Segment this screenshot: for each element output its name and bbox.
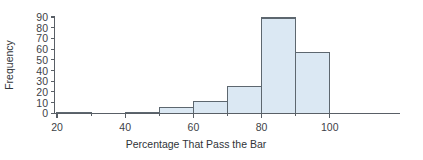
bar-70-80 — [228, 87, 262, 114]
x-tick-label: 100 — [321, 121, 339, 133]
x-tick-label: 60 — [188, 121, 200, 133]
histogram-chart: Frequency 90 80 70 60 50 40 30 20 10 0 — [0, 0, 423, 160]
y-axis-title: Frequency — [3, 39, 15, 89]
x-tick-label: 20 — [51, 121, 63, 133]
bar-50-60 — [159, 108, 193, 113]
bar-80-90 — [262, 18, 296, 113]
x-tick-label: 80 — [256, 121, 268, 133]
histogram-bars — [57, 18, 330, 113]
histogram-figure: Frequency 90 80 70 60 50 40 30 20 10 0 — [0, 0, 423, 160]
y-tick-label: 0 — [42, 107, 48, 119]
bar-90-100 — [296, 52, 330, 113]
bar-60-70 — [193, 102, 227, 114]
x-axis-title: Percentage That Pass the Bar — [126, 138, 267, 150]
y-axis-tick-labels: 90 80 70 60 50 40 30 20 10 0 — [36, 11, 48, 119]
y-axis — [51, 17, 55, 114]
x-tick-label: 40 — [119, 121, 131, 133]
x-axis — [55, 113, 401, 118]
x-axis-tick-labels: 20 40 60 80 100 — [51, 121, 339, 133]
